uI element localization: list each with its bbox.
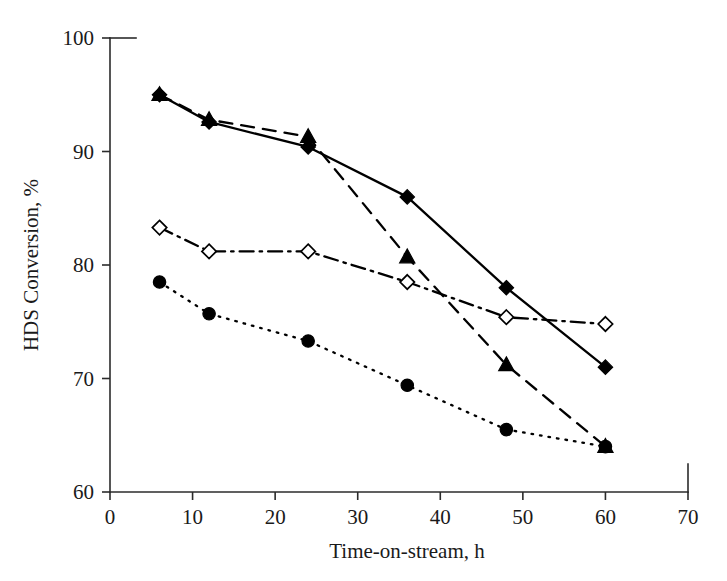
series-filled-triangle (152, 87, 613, 453)
x-axis-tick-label: 10 (182, 505, 203, 529)
series-filled-triangle-marker (400, 249, 415, 263)
x-axis-tick-label: 50 (512, 505, 533, 529)
series-open-diamond-marker (598, 317, 612, 331)
x-axis-tick-label: 40 (430, 505, 451, 529)
series-open-diamond-marker (301, 244, 315, 258)
series-open-diamond-line (160, 228, 606, 324)
y-axis-tick-label: 60 (73, 480, 94, 504)
y-axis-title: HDS Conversion, % (19, 179, 43, 351)
series-filled-circle-marker (401, 379, 413, 391)
y-axis-tick-label: 100 (63, 26, 95, 50)
y-axis-tick-label: 80 (73, 253, 94, 277)
series-filled-triangle-line (160, 95, 606, 447)
series-filled-diamond (152, 88, 612, 375)
series-open-diamond-marker (400, 275, 414, 289)
series-filled-diamond-line (160, 95, 606, 367)
series-filled-circle-marker (203, 308, 215, 320)
x-axis-tick-label: 30 (347, 505, 368, 529)
series-open-diamond-marker (152, 220, 166, 234)
chart-figure: 60708090100010203040506070 Time-on-strea… (0, 0, 727, 581)
chart-plot-area: 60708090100010203040506070 Time-on-strea… (0, 0, 727, 581)
x-axis-tick-label: 20 (265, 505, 286, 529)
series-filled-circle-marker (599, 440, 611, 452)
series-filled-circle (153, 276, 611, 453)
y-axis-tick-label: 70 (73, 367, 94, 391)
x-axis-title: Time-on-stream, h (329, 539, 485, 563)
series-filled-circle-marker (153, 276, 165, 288)
series-open-diamond-marker (202, 244, 216, 258)
series-filled-triangle-marker (301, 129, 316, 143)
series-filled-circle-marker (302, 335, 314, 347)
series-filled-circle-marker (500, 423, 512, 435)
x-axis-tick-label: 60 (595, 505, 616, 529)
series-open-diamond (152, 220, 612, 331)
x-axis-tick-label: 70 (678, 505, 699, 529)
x-axis-tick-label: 0 (105, 505, 116, 529)
series-filled-circle-line (160, 282, 606, 447)
chart-series-group (152, 87, 613, 453)
y-axis-tick-label: 90 (73, 140, 94, 164)
series-open-diamond-marker (499, 310, 513, 324)
